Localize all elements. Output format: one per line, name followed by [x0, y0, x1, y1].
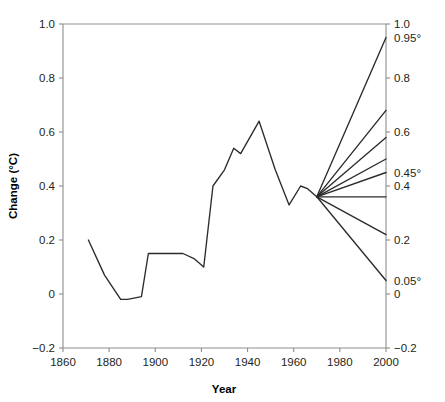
y-axis-title: Change (°C) [7, 153, 19, 219]
x-axis-tick-label: 1980 [327, 356, 353, 368]
x-axis-tick-label: 1900 [142, 356, 168, 368]
left-axis: −0.200.20.40.60.81.0 [32, 18, 63, 354]
right-axis-tick-label: 1.0 [394, 18, 410, 30]
right-axis-tick-label: −0.2 [394, 342, 417, 354]
chart-canvas: −0.200.20.40.60.81.0 −0.200.20.40.60.81.… [0, 0, 445, 402]
right-axis: −0.200.20.40.60.81.00.95°0.45°0.05° [386, 18, 421, 354]
bottom-axis: 18601880190019201940196019802000 [50, 348, 399, 368]
y-axis-tick-label: 0.4 [39, 180, 56, 192]
right-axis-tick-label: 0.8 [394, 72, 410, 84]
right-axis-tick-label: 0.6 [394, 126, 410, 138]
series-line-projection-1 [317, 38, 386, 197]
series-line-projection-8 [317, 197, 386, 281]
series-line-projection-4 [317, 159, 386, 197]
right-axis-annotation: 0.95° [394, 32, 421, 44]
right-axis-tick-label: 0 [394, 288, 400, 300]
series-line-projection-3 [317, 137, 386, 196]
x-axis-tick-label: 1860 [50, 356, 76, 368]
series-line-projection-2 [317, 110, 386, 196]
right-axis-annotation: 0.05° [394, 275, 421, 287]
series-line-projection-7 [317, 197, 386, 235]
x-axis-tick-label: 2000 [373, 356, 399, 368]
right-axis-tick-label: 0.4 [394, 180, 411, 192]
y-axis-tick-label: 0 [49, 288, 55, 300]
x-axis-tick-label: 1920 [189, 356, 215, 368]
y-axis-tick-label: 1.0 [39, 18, 55, 30]
y-axis-tick-label: 0.6 [39, 126, 55, 138]
data-series [88, 38, 386, 300]
temperature-change-chart: −0.200.20.40.60.81.0 −0.200.20.40.60.81.… [0, 0, 445, 402]
x-axis-title: Year [212, 383, 237, 395]
y-axis-tick-label: −0.2 [32, 342, 55, 354]
right-axis-annotation: 0.45° [394, 167, 421, 179]
x-axis-tick-label: 1960 [281, 356, 307, 368]
series-line-observed [88, 121, 316, 299]
x-axis-tick-label: 1880 [96, 356, 122, 368]
right-axis-tick-label: 0.2 [394, 234, 410, 246]
x-axis-tick-label: 1940 [235, 356, 261, 368]
y-axis-tick-label: 0.8 [39, 72, 55, 84]
y-axis-tick-label: 0.2 [39, 234, 55, 246]
